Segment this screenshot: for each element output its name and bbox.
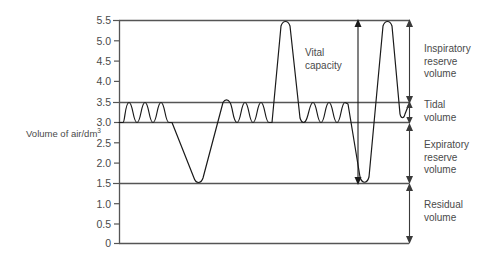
y-tick-label-0: 0 bbox=[85, 238, 111, 248]
y-tick-label-2-5: 2.5 bbox=[85, 138, 111, 148]
tidal-volume-label: Tidal volume bbox=[424, 99, 486, 124]
inspiratory-reserve-volume-arrow bbox=[406, 19, 413, 104]
y-tick-label-5-0: 5.0 bbox=[85, 36, 111, 46]
y-tick-label-2-0: 2.0 bbox=[85, 158, 111, 168]
y-axis-title-text: Volume of air/dm bbox=[26, 128, 97, 139]
inspiratory-reserve-volume-label: Inspiratory reserve volume bbox=[424, 43, 486, 81]
y-tick-label-1-0: 1.0 bbox=[85, 199, 111, 209]
y-tick-label-4-0: 4.0 bbox=[85, 76, 111, 86]
y-tick-label-4-5: 4.5 bbox=[85, 56, 111, 66]
residual-volume-arrow bbox=[406, 183, 413, 244]
spirometer-chart: 5.5 5.0 4.5 4.0 3.5 3.0 2.5 2.0 1.5 1.0 … bbox=[0, 0, 487, 263]
residual-volume-label: Residual volume bbox=[424, 199, 486, 224]
y-tick-label-5-5: 5.5 bbox=[85, 15, 111, 25]
y-axis-title: Volume of air/dm3 bbox=[16, 125, 111, 139]
vital-capacity-label: Vital capacity bbox=[305, 47, 353, 72]
expiratory-reserve-volume-arrow bbox=[406, 123, 413, 184]
y-tick-label-1-5: 1.5 bbox=[85, 178, 111, 188]
y-tick-label-3-5: 3.5 bbox=[85, 97, 111, 107]
y-axis-title-exponent: 3 bbox=[97, 127, 101, 134]
expiratory-reserve-volume-label: Expiratory reserve volume bbox=[424, 139, 486, 177]
y-tick-label-0-5: 0.5 bbox=[85, 219, 111, 229]
y-axis-ticks bbox=[113, 21, 120, 244]
tidal-volume-arrow bbox=[406, 101, 412, 124]
